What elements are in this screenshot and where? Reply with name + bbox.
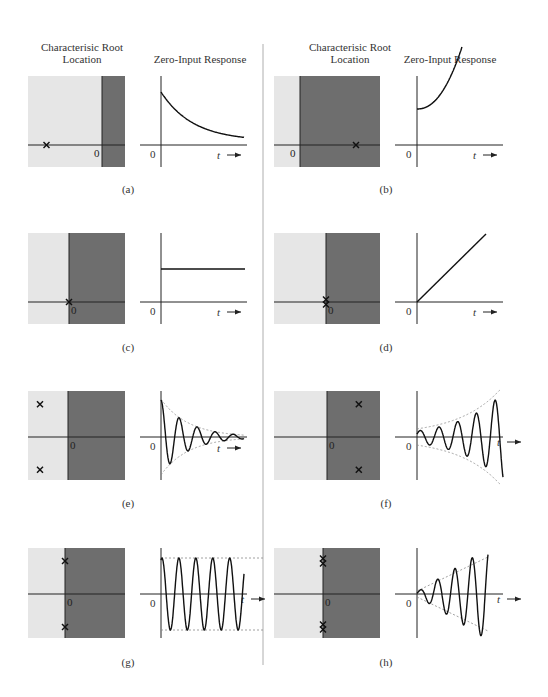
- unstable-region: [69, 233, 125, 324]
- response-curve: [417, 234, 486, 302]
- time-arrow-head: [515, 440, 521, 445]
- time-arrow-head: [235, 446, 241, 451]
- time-arrow-head: [259, 597, 265, 602]
- stable-region: [274, 233, 326, 324]
- panel-c: 00t: [28, 233, 247, 324]
- response-curve: [417, 555, 488, 636]
- unstable-region: [65, 548, 125, 638]
- stable-region: [28, 76, 102, 167]
- panel-caption-c: (c): [113, 341, 143, 353]
- time-arrow-head: [235, 153, 241, 158]
- origin-label-splane: 0: [67, 596, 73, 608]
- panel-h: 00t: [274, 548, 521, 638]
- stable-region: [274, 391, 327, 480]
- unstable-region: [327, 391, 380, 480]
- stable-region: [274, 76, 300, 167]
- time-arrow-head: [491, 310, 497, 315]
- origin-label-response: 0: [406, 305, 412, 317]
- origin-label-splane: 0: [70, 439, 76, 451]
- time-label: t: [497, 593, 501, 605]
- response-curve: [417, 47, 462, 109]
- panel-caption-g: (g): [113, 656, 143, 668]
- panel-e: 00t: [28, 391, 247, 480]
- panel-caption-h: (h): [371, 656, 401, 668]
- panel-a: 00t: [28, 76, 247, 167]
- origin-label-response: 0: [150, 597, 156, 609]
- envelope-line: [161, 399, 244, 435]
- time-label: t: [217, 306, 221, 318]
- panel-caption-b: (b): [371, 183, 401, 195]
- time-label: t: [473, 306, 477, 318]
- time-label: t: [473, 149, 477, 161]
- time-arrow-head: [235, 310, 241, 315]
- panel-caption-e: (e): [113, 497, 143, 509]
- origin-label-response: 0: [150, 148, 156, 160]
- time-label: t: [217, 442, 221, 454]
- unstable-region: [300, 76, 380, 167]
- unstable-region: [323, 548, 380, 638]
- origin-label-splane: 0: [290, 147, 296, 159]
- origin-label-response: 0: [406, 597, 412, 609]
- origin-label-splane: 0: [94, 147, 100, 159]
- response-curve: [417, 400, 503, 477]
- origin-label-splane: 0: [71, 304, 77, 316]
- panel-d: 00t: [274, 233, 503, 324]
- panel-caption-d: (d): [371, 341, 401, 353]
- time-arrow-head: [491, 153, 497, 158]
- stable-region: [28, 233, 69, 324]
- origin-label-response: 0: [406, 148, 412, 160]
- panel-b: 00t: [274, 47, 503, 167]
- origin-label-splane: 0: [329, 439, 335, 451]
- unstable-region: [102, 76, 125, 167]
- origin-label-splane: 0: [325, 596, 331, 608]
- panel-caption-a: (a): [113, 183, 143, 195]
- origin-label-splane: 0: [328, 304, 334, 316]
- time-label: t: [217, 149, 221, 161]
- time-arrow-head: [515, 597, 521, 602]
- panel-g: 00t: [28, 548, 265, 638]
- response-curve: [161, 400, 244, 464]
- root-response-figure: 00t00t00t00t00t00t00t00t: [0, 0, 548, 697]
- panel-f: 00t: [274, 390, 521, 484]
- panel-caption-f: (f): [371, 497, 401, 509]
- unstable-region: [68, 391, 125, 480]
- unstable-region: [326, 233, 380, 324]
- origin-label-response: 0: [150, 305, 156, 317]
- stable-region: [28, 548, 65, 638]
- stable-region: [274, 548, 323, 638]
- origin-label-response: 0: [406, 440, 412, 452]
- origin-label-response: 0: [150, 440, 156, 452]
- stable-region: [28, 391, 68, 480]
- response-curve: [161, 92, 244, 137]
